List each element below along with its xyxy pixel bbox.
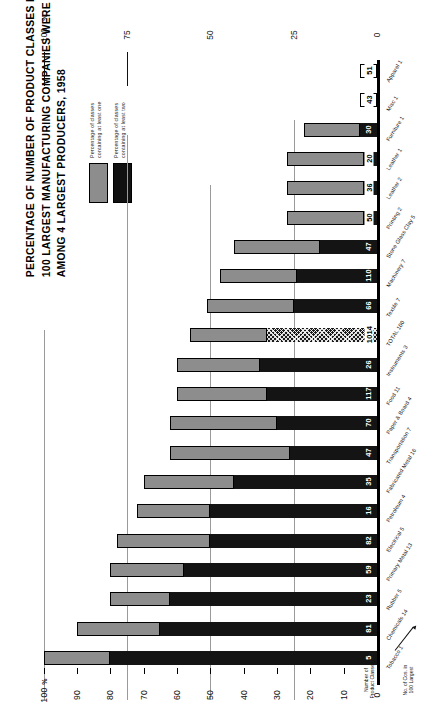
bar-group — [0, 504, 377, 518]
category-label: Leather 1 — [385, 147, 403, 171]
tickmark-0 — [377, 668, 378, 674]
tickmark-40 — [244, 668, 245, 674]
bar-value-label: 82 — [364, 529, 373, 551]
category-label: Printing 2 — [385, 206, 403, 230]
bar-segment-at-least-two — [277, 416, 377, 430]
category-label: Petroleum 4 — [385, 494, 407, 524]
bar-segment-at-least-one — [77, 622, 160, 636]
bar-group — [0, 446, 377, 460]
bar-group — [0, 328, 377, 342]
bar-segment-at-least-one — [144, 475, 234, 489]
value-tick-20: 20 — [305, 683, 315, 707]
chart-canvas: PERCENTAGE OF NUMBER OF PRODUCT CLASSES … — [0, 0, 440, 716]
bar-segment-at-least-one — [234, 240, 321, 254]
bar-group — [0, 269, 377, 283]
bottom-percent-symbol: % — [40, 674, 47, 690]
bar-value-label: 26 — [364, 353, 373, 375]
category-label: Instruments 3 — [385, 344, 409, 377]
category-label: Apparel 1 — [385, 59, 404, 83]
bar-group — [0, 64, 377, 78]
bar-value-label: 117 — [364, 382, 373, 404]
bar-segment-at-least-two — [184, 563, 377, 577]
bar-segment-at-least-one — [137, 504, 210, 518]
category-label: Food 11 — [385, 385, 401, 406]
bar-group — [0, 123, 377, 137]
bar-value-label: 66 — [364, 294, 373, 316]
tickmark-60 — [177, 668, 178, 674]
bar-value-label: 1014 — [365, 323, 374, 347]
bar-value-label: 81 — [364, 617, 373, 639]
category-label: Furniture 1 — [385, 115, 405, 142]
bar-segment-at-least-one — [117, 534, 210, 548]
bar-segment-at-least-one — [177, 358, 260, 372]
bar-segment-at-least-two — [234, 475, 377, 489]
value-tick-70: 70 — [139, 683, 149, 707]
top-tick-label-75: 75 — [122, 23, 132, 47]
value-tick-40: 40 — [239, 683, 249, 707]
category-label: Machinery 7 — [385, 259, 407, 289]
bar-group — [0, 181, 377, 195]
category-label: Misc 1 — [385, 95, 399, 113]
tickmark-80 — [110, 668, 111, 674]
tickmark-30 — [277, 668, 278, 674]
bar-value-label: 110 — [364, 265, 373, 287]
count-axis-marker — [372, 660, 377, 665]
zero-axis-line — [377, 60, 380, 685]
bar-value-label: 30 — [364, 118, 373, 140]
bar-group — [0, 358, 377, 372]
bar-segment-at-least-one — [177, 387, 267, 401]
bar-value-label: 20 — [365, 147, 374, 171]
bar-segment-at-least-two — [267, 328, 377, 342]
plot-area: 1007550250%51Apparel 143Misc 130Furnitur… — [0, 0, 440, 716]
bar-segment-at-least-two — [170, 592, 377, 606]
bar-group — [0, 387, 377, 401]
bar-value-label: 16 — [364, 500, 373, 522]
category-label: Textile 7 — [385, 297, 402, 319]
category-label: Leather 2 — [385, 177, 403, 201]
bar-group — [0, 563, 377, 577]
bar-segment-at-least-one — [190, 328, 267, 342]
bar-segment-at-least-one — [220, 269, 297, 283]
bar-segment-at-least-one — [44, 651, 111, 665]
bar-segment-at-least-one — [110, 563, 183, 577]
value-tick-10: 10 — [339, 683, 349, 707]
value-tick-60: 60 — [172, 683, 182, 707]
value-tick-50: 50 — [205, 683, 215, 707]
bar-value-label: 70 — [364, 412, 373, 434]
top-tick-label-100: 100 — [39, 23, 49, 47]
bar-value-label: 59 — [364, 558, 373, 580]
value-tick-90: 90 — [72, 683, 82, 707]
top-tick-label-50: 50 — [205, 23, 215, 47]
bar-segment-at-least-one — [304, 123, 361, 137]
bar-segment-at-least-one — [170, 416, 277, 430]
bar-segment-at-least-two — [260, 358, 377, 372]
bar-value-label: 36 — [365, 176, 374, 200]
bar-value-label: 43 — [365, 88, 374, 112]
top-tick-label-0: 0 — [372, 23, 382, 47]
bar-group — [0, 475, 377, 489]
bar-group — [0, 651, 377, 665]
top-tick-label-25: 25 — [289, 23, 299, 47]
bar-value-label: 35 — [364, 470, 373, 492]
bar-group — [0, 592, 377, 606]
tickmark-70 — [144, 668, 145, 674]
bar-value-label: 47 — [364, 236, 373, 258]
bar-group — [0, 534, 377, 548]
bar-value-label: 51 — [365, 59, 374, 83]
bar-value-label: 50 — [365, 205, 374, 229]
bar-segment-at-least-one — [287, 211, 364, 225]
bar-segment-at-least-one — [110, 592, 170, 606]
bar-group — [0, 299, 377, 313]
bar-segment-at-least-two — [210, 504, 377, 518]
gridline-25 — [294, 120, 295, 700]
company-axis-label: No. of Cos. in 100 Largest — [402, 657, 414, 703]
value-tick-30: 30 — [272, 683, 282, 707]
bar-group — [0, 416, 377, 430]
bar-group — [0, 211, 377, 225]
bar-segment-at-least-one — [287, 152, 364, 166]
bar-value-label: 23 — [364, 588, 373, 610]
top-percent-symbol: % — [40, 10, 47, 26]
bar-segment-at-least-two — [210, 534, 377, 548]
bar-group — [0, 152, 377, 166]
category-label: Rubber 5 — [385, 588, 403, 612]
